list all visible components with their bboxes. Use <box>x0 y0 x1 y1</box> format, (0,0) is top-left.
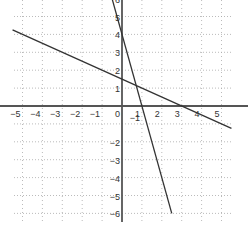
y-tick-label: −3 <box>110 156 120 166</box>
x-tick-label: −5 <box>10 109 20 119</box>
x-tick-label: −1 <box>90 109 100 119</box>
y-tick-label: −2 <box>110 138 120 148</box>
y-tick-label: 4 <box>115 30 120 40</box>
y-tick-label: 1 <box>115 84 120 94</box>
y-tick-label: −4 <box>110 174 120 184</box>
y-tick-label: 6 <box>115 0 120 5</box>
y-tick-label: 3 <box>115 48 120 58</box>
y-tick-label: −6 <box>110 209 120 219</box>
x-tick-label: −3 <box>50 109 60 119</box>
y-tick-label: 2 <box>115 66 120 76</box>
x-tick-label: 5 <box>214 109 219 119</box>
x-tick-label: −4 <box>30 109 40 119</box>
y-tick-label: −1 <box>130 113 140 123</box>
x-tick-label: 2 <box>155 109 160 119</box>
graph: −5−4−3−2−1012345−6−5−4−3−2−1123456 <box>0 0 248 230</box>
x-tick-label: 3 <box>175 109 180 119</box>
x-tick-label: 0 <box>115 109 120 119</box>
y-tick-label: −5 <box>110 192 120 202</box>
coordinate-plane: −5−4−3−2−1012345−6−5−4−3−2−1123456 <box>0 0 248 230</box>
x-tick-label: −2 <box>70 109 80 119</box>
